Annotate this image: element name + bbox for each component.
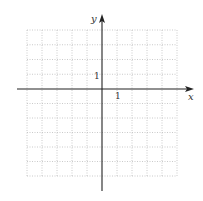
coordinate-plane: y x 1 1: [0, 0, 203, 201]
x-axis: [17, 86, 194, 92]
y-tick-label: 1: [94, 71, 100, 81]
x-axis-label: x: [188, 91, 194, 102]
y-axis: [99, 14, 105, 191]
y-axis-label: y: [90, 13, 97, 24]
x-tick-label: 1: [115, 91, 121, 101]
